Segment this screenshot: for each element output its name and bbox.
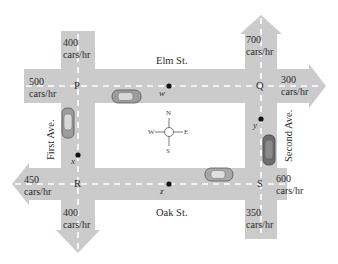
flow-oak-east-in: 600cars/hr — [276, 173, 303, 197]
intersection-p: P — [74, 80, 80, 92]
point-x — [75, 152, 80, 157]
flow-second-north-out: 700cars/hr — [246, 34, 273, 58]
flow-first-south-out: 400cars/hr — [63, 207, 90, 231]
point-w — [166, 83, 171, 88]
point-label-x: x — [71, 156, 75, 166]
point-label-z: z — [160, 186, 164, 196]
intersection-s: S — [257, 178, 263, 190]
compass-label-e: E — [184, 128, 188, 136]
point-label-y: y — [253, 120, 257, 130]
street-label-first: First Ave. — [45, 119, 56, 160]
car-elm — [112, 90, 141, 103]
intersection-r: R — [74, 178, 81, 190]
street-label-second: Second Ave. — [283, 110, 294, 162]
flow-elm-east-out: 300cars/hr — [281, 74, 308, 98]
flow-oak-west-out: 450cars/hr — [24, 174, 51, 198]
intersection-q: Q — [256, 80, 264, 92]
compass-label-s: S — [166, 147, 170, 155]
car-first-ave — [62, 108, 74, 138]
point-y — [258, 116, 263, 121]
street-label-elm: Elm St. — [156, 55, 188, 67]
compass-icon — [155, 118, 183, 146]
flow-elm-west-in: 500cars/hr — [29, 76, 56, 100]
point-label-w: w — [159, 88, 165, 98]
car-second-ave — [263, 135, 275, 165]
street-label-oak: Oak St. — [156, 207, 188, 219]
compass-label-n: N — [166, 109, 171, 117]
compass-label-w: W — [148, 128, 155, 136]
point-z — [166, 181, 171, 186]
flow-first-north-in: 400cars/hr — [63, 37, 90, 61]
car-oak — [205, 168, 233, 181]
flow-second-south-in: 350cars/hr — [246, 207, 273, 231]
